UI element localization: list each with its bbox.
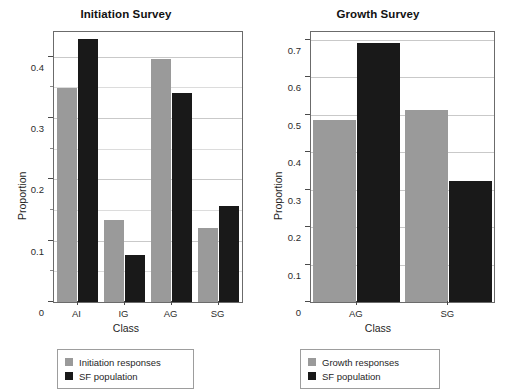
chart-panel-initiation-survey: Initiation Survey Proportion 00.10.20.30… (0, 0, 252, 391)
y-tick-mark (305, 151, 310, 152)
bar (219, 206, 239, 302)
y-tick-label: 0 (252, 307, 301, 318)
y-axis-title: Proportion (16, 172, 28, 220)
y-tick-label: 0.1 (0, 245, 44, 256)
x-tick-mark (218, 301, 219, 305)
y-tick-label: 0.2 (252, 232, 301, 243)
legend-swatch-icon (65, 358, 73, 366)
y-tick-label: 0.4 (0, 61, 44, 72)
bars-container (54, 32, 242, 302)
y-tick-label: 0.7 (252, 44, 301, 55)
y-tick-mark (305, 226, 310, 227)
bar (104, 220, 124, 302)
y-tick-label: 0.5 (252, 119, 301, 130)
legend-label: SF population (79, 371, 138, 382)
bar (198, 228, 218, 302)
legend-swatch-icon (308, 372, 316, 380)
legend-item: SF population (65, 369, 185, 383)
bar (151, 59, 171, 302)
bar (172, 93, 192, 302)
legend-label: Growth responses (322, 357, 399, 368)
y-tick-mark (305, 114, 310, 115)
y-tick-mark (48, 301, 53, 302)
bar (449, 181, 492, 302)
y-tick-mark-minor (50, 86, 53, 87)
x-axis-title: Class (0, 322, 252, 334)
bar (125, 255, 145, 302)
bar (57, 88, 77, 302)
x-tick-label: AI (72, 308, 81, 319)
plot-area (53, 31, 243, 303)
y-tick-label: 0.3 (252, 194, 301, 205)
legend-label: Initiation responses (79, 357, 161, 368)
y-tick-mark (48, 117, 53, 118)
y-tick-label: 0.6 (252, 82, 301, 93)
y-tick-mark-minor (50, 148, 53, 149)
legend-swatch-icon (308, 358, 316, 366)
y-tick-mark (305, 76, 310, 77)
y-tick-label: 0.4 (252, 157, 301, 168)
x-tick-label: SG (211, 308, 225, 319)
x-axis-title: Class (252, 322, 504, 334)
chart-title: Initiation Survey (0, 8, 252, 20)
legend: Growth responses SF population (300, 349, 440, 389)
y-tick-mark (305, 39, 310, 40)
x-tick-mark (447, 301, 448, 305)
y-tick-label: 0.3 (0, 122, 44, 133)
y-tick-label: 0.1 (252, 269, 301, 280)
figure: Initiation Survey Proportion 00.10.20.30… (0, 0, 505, 391)
legend-label: SF population (322, 371, 381, 382)
bars-container (311, 32, 494, 302)
x-tick-label: IG (118, 308, 128, 319)
bar (357, 43, 400, 302)
y-tick-mark-minor (50, 209, 53, 210)
x-tick-mark (124, 301, 125, 305)
x-tick-mark (77, 301, 78, 305)
chart-title: Growth Survey (252, 8, 504, 20)
bar (313, 120, 356, 302)
y-tick-mark (48, 178, 53, 179)
x-tick-label: SG (440, 308, 454, 319)
bar (78, 39, 98, 302)
chart-panel-growth-survey: Growth Survey Proportion 00.10.20.30.40.… (252, 0, 504, 391)
y-tick-label: 0 (0, 307, 44, 318)
y-tick-mark (305, 189, 310, 190)
plot-area (310, 31, 495, 303)
legend-item: Growth responses (308, 355, 431, 369)
y-tick-mark (305, 301, 310, 302)
y-tick-mark (48, 56, 53, 57)
y-tick-mark (48, 240, 53, 241)
legend-swatch-icon (65, 372, 73, 380)
y-tick-mark (305, 264, 310, 265)
bar (405, 110, 448, 302)
legend-item: SF population (308, 369, 431, 383)
y-tick-mark-minor (50, 270, 53, 271)
x-tick-label: AG (164, 308, 178, 319)
x-tick-label: AG (349, 308, 363, 319)
legend-item: Initiation responses (65, 355, 185, 369)
legend: Initiation responses SF population (57, 349, 194, 389)
x-tick-mark (171, 301, 172, 305)
y-tick-label: 0.2 (0, 184, 44, 195)
x-tick-mark (356, 301, 357, 305)
